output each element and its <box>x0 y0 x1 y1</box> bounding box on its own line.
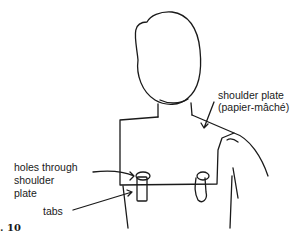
arm-inner <box>227 139 238 142</box>
neck-right <box>191 103 192 115</box>
label-tabs: tabs <box>43 205 63 217</box>
puppet-drawing <box>0 0 300 235</box>
arm-line2 <box>230 176 232 228</box>
leader-holes <box>93 171 134 180</box>
hole-right <box>197 172 209 180</box>
label-holes-2: shoulder <box>14 174 54 186</box>
label-shoulder-plate: shoulder plate <box>218 89 284 101</box>
leader-tabs <box>73 190 132 210</box>
body-left <box>123 186 128 228</box>
label-holes-3: plate <box>14 187 37 199</box>
arm-outer <box>234 133 268 176</box>
label-holes-1: holes through <box>14 161 78 173</box>
tab-right <box>195 178 206 202</box>
chin-line <box>160 99 188 103</box>
label-papier-mache: (papier-mâché) <box>218 101 289 113</box>
arm-line1 <box>233 168 238 198</box>
hole-left <box>136 172 150 180</box>
head-outline <box>135 12 200 104</box>
figure-number: . 10 <box>0 222 21 233</box>
